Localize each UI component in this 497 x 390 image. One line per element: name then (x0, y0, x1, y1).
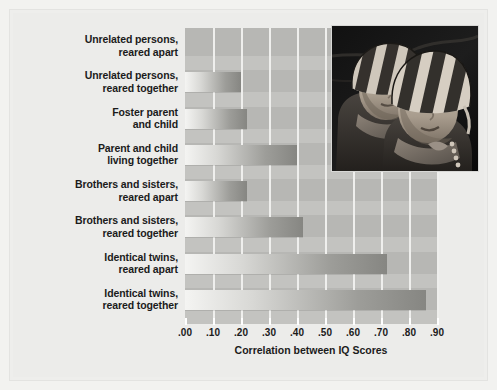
category-label-line2: reared apart (20, 191, 178, 204)
iq-correlation-figure: Unrelated persons,reared apartUnrelated … (0, 0, 497, 390)
category-label-line2: reared apart (20, 263, 178, 276)
x-axis-tick-label: .40 (282, 327, 312, 338)
category-label: Parent and childliving together (20, 142, 178, 167)
x-axis-title: Correlation between IQ Scores (185, 344, 437, 356)
bar[interactable] (185, 181, 247, 201)
bar[interactable] (185, 290, 426, 310)
category-label-line1: Unrelated persons, (20, 69, 178, 82)
category-label-line2: reared apart (20, 46, 178, 59)
bar[interactable] (185, 254, 387, 274)
category-label: Unrelated persons,reared apart (20, 33, 178, 58)
category-label: Brothers and sisters,reared together (20, 214, 178, 239)
x-axis-tick-label: .90 (422, 327, 452, 338)
x-axis-tick (437, 318, 439, 325)
bar-row[interactable] (185, 217, 437, 237)
category-label: Brothers and sisters,reared apart (20, 178, 178, 203)
x-axis-tick-label: .00 (170, 327, 200, 338)
category-labels: Unrelated persons,reared apartUnrelated … (20, 28, 178, 318)
category-label-line2: reared together (20, 299, 178, 312)
category-label-line1: Parent and child (20, 142, 178, 155)
bar-row[interactable] (185, 254, 437, 274)
category-label-line2: reared together (20, 82, 178, 95)
x-axis-tick (409, 318, 411, 325)
x-axis-tick-label: .20 (226, 327, 256, 338)
category-label: Identical twins,reared together (20, 287, 178, 312)
category-label-line2: reared together (20, 227, 178, 240)
x-axis-tick (353, 318, 355, 325)
category-label-line1: Identical twins, (20, 287, 178, 300)
x-axis-tick-label: .80 (394, 327, 424, 338)
x-axis-tick-label: .50 (310, 327, 340, 338)
category-label-line1: Unrelated persons, (20, 33, 178, 46)
category-label: Unrelated persons,reared together (20, 69, 178, 94)
x-axis-tick (325, 318, 327, 325)
category-label-line1: Identical twins, (20, 251, 178, 264)
bar-row[interactable] (185, 181, 437, 201)
bar[interactable] (185, 217, 303, 237)
bar[interactable] (185, 145, 297, 165)
x-axis-tick (185, 318, 187, 325)
x-axis-tick-label: .30 (254, 327, 284, 338)
category-label-line1: Foster parent (20, 106, 178, 119)
category-label: Foster parentand child (20, 106, 178, 131)
category-label: Identical twins,reared apart (20, 251, 178, 276)
category-label-line1: Brothers and sisters, (20, 178, 178, 191)
category-label-line2: and child (20, 118, 178, 131)
category-label-line1: Brothers and sisters, (20, 214, 178, 227)
x-axis-tick (213, 318, 215, 325)
photograph-of-twin-infants (331, 25, 479, 172)
x-axis-tick-labels: .00.10.20.30.40.50.60.70.80.90 (170, 327, 470, 341)
bar[interactable] (185, 72, 241, 92)
x-axis-tick-label: .10 (198, 327, 228, 338)
x-axis-tick (269, 318, 271, 325)
x-axis-tick (297, 318, 299, 325)
x-axis-tick-label: .60 (338, 327, 368, 338)
bar-row[interactable] (185, 290, 437, 310)
x-axis-tick (241, 318, 243, 325)
x-axis-ticks (185, 318, 447, 326)
category-label-line2: living together (20, 154, 178, 167)
x-axis-tick (381, 318, 383, 325)
bar[interactable] (185, 109, 247, 129)
x-axis-tick-label: .70 (366, 327, 396, 338)
